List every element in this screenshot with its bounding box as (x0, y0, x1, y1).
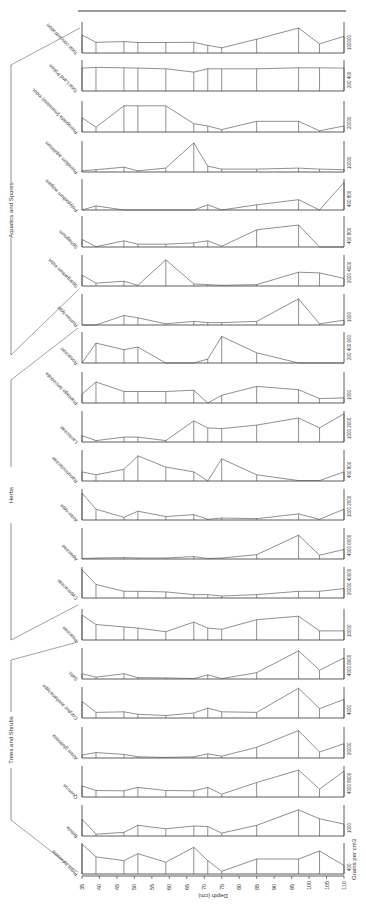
taxon-panel: 20000Pteropsida (monolete) indet. (30, 87, 352, 136)
taxon-panel: 20000Alnus glutinosa (50, 727, 352, 762)
depth-axis: 35404550556065707580859095100105110 (79, 876, 347, 890)
taxon-panel: 10000Pteridium aquilinum (43, 140, 352, 175)
group-label: Trees and Shrubs (8, 716, 14, 763)
concentration-curve (82, 651, 344, 679)
concentration-curve (82, 615, 344, 632)
taxon-panel: 200 400 600Rosaceae (58, 332, 352, 367)
taxon-label: Sphagnum (57, 229, 78, 250)
taxon-panel: 400 800Polypodium vulgare (43, 178, 352, 213)
taxon-panel: 20000 40000Cyperaceae (55, 567, 352, 602)
group-brackets: Aquatics and SporesHerbsTrees and Shrubs (7, 28, 80, 872)
panel-scale-label: 4000 8000 (347, 772, 352, 794)
panel-scale-label: 200 400 (347, 71, 352, 88)
panel-scale-label: 2000 4000 (347, 261, 352, 283)
concentration-curve (82, 382, 344, 403)
depth-tick-label: 45 (114, 884, 120, 890)
depth-tick-label: 85 (254, 884, 260, 890)
taxon-panel: 1000Betula (64, 805, 352, 840)
taxon-label: Ranunculaceae (50, 456, 79, 485)
depth-tick-label: 90 (271, 884, 277, 890)
concentration-curve (82, 770, 344, 794)
concentration-curve (82, 570, 344, 596)
concentration-curve (82, 456, 344, 481)
panel-scale-label: 20000 40000 (347, 568, 352, 595)
panel-scale-label: 1000 (347, 311, 352, 322)
group-label: Aquatics and Spores (8, 182, 14, 237)
taxon-label: Salix (66, 670, 78, 682)
taxa-panels: 100000Total concentration200 400Total La… (30, 22, 352, 878)
panel-scale-label: 400 800 (347, 190, 352, 207)
concentration-curve (82, 67, 344, 72)
group-label: Herbs (8, 487, 14, 503)
depth-tick-label: 65 (184, 884, 190, 890)
taxon-label: Aster-type (58, 503, 79, 524)
taxon-panel: 1000 2000Lactuceae (58, 411, 352, 446)
panel-scale-label: 1000 2000 (347, 495, 352, 517)
depth-tick-label: 110 (341, 881, 347, 890)
taxon-label: Total Land Pollen (47, 63, 79, 95)
depth-tick-label: 35 (79, 884, 85, 890)
taxon-panel: 4000Corylus avellana-type (40, 683, 352, 721)
taxon-label: Alnus glutinosa (50, 733, 78, 761)
taxon-label: Rosaceae (58, 346, 78, 366)
depth-tick-label: 100 (306, 881, 312, 890)
taxon-panel: 1000Plantago lanceolata (43, 371, 352, 406)
concentration-curve (82, 182, 344, 210)
taxon-panel: 1000 2000Aster-type (58, 489, 352, 524)
taxon-panel: 400 800Ranunculaceae (50, 450, 352, 485)
depth-tick-label: 80 (236, 884, 242, 890)
taxon-label: Polypodium vulgare (43, 178, 78, 213)
panel-scale-label: 4000 (347, 704, 352, 715)
taxon-panel: 2000 4000Sparganium indet. (46, 255, 352, 290)
concentration-curve (82, 336, 344, 363)
taxon-label: Total concentration (45, 22, 79, 56)
concentration-curve (82, 299, 344, 325)
panel-scale-label: 200 400 600 (347, 334, 352, 360)
bracket-connector (11, 642, 78, 660)
taxon-label: Pteridium aquilinum (43, 140, 78, 175)
panel-scale-label: 20000 (347, 116, 352, 129)
panel-scale-label: 1000 (347, 389, 352, 400)
taxon-label: Pinus sylvestris (50, 849, 79, 878)
concentration-curve (82, 414, 344, 441)
concentration-curve (82, 810, 344, 834)
concentration-curve (82, 106, 344, 131)
grains-axis-label: Grains per cm3 (351, 838, 357, 880)
depth-tick-label: 95 (289, 884, 295, 890)
group-bracket: Aquatics and Spores (7, 65, 15, 355)
depth-tick-label: 40 (96, 884, 102, 890)
concentration-curve (82, 844, 344, 871)
panel-scale-label: 400 800 (347, 227, 352, 244)
taxon-label: Quercus (61, 783, 79, 801)
depth-tick-label: 75 (219, 884, 225, 890)
taxon-panel: 4000 8000Salix (66, 648, 352, 683)
taxon-label: Sparganium indet. (46, 257, 79, 290)
concentration-curve (82, 260, 344, 286)
depth-tick-label: 50 (131, 884, 137, 890)
panel-scale-label: 10000 (347, 624, 352, 637)
taxon-panel: 400Pinus sylvestris (50, 843, 352, 878)
pollen-diagram-svg: 100000Total concentration200 400Total La… (0, 0, 366, 904)
panel-scale-label: 100000 (347, 34, 352, 50)
taxon-panel: 4000 6000Apiaceae (60, 528, 352, 563)
depth-tick-label: 105 (324, 881, 330, 890)
panel-scale-label: 10000 (347, 156, 352, 169)
taxon-label: Cyperaceae (55, 578, 78, 601)
taxon-panel: 10000Poaceae (60, 609, 352, 644)
taxon-panel: 400 800Sphagnum (57, 216, 352, 251)
taxon-panel: 1000Rumex-type (55, 294, 352, 329)
group-bracket: Herbs (7, 380, 15, 640)
panel-scale-label: 1000 (347, 822, 352, 833)
depth-tick-label: 60 (166, 884, 172, 890)
taxon-label: Poaceae (60, 625, 78, 643)
depth-axis-label: Depth (cm) (198, 893, 228, 899)
pollen-diagram: 100000Total concentration200 400Total La… (0, 0, 366, 904)
taxon-label: Corylus avellana-type (40, 683, 78, 721)
panel-scale-label: 400 800 (347, 461, 352, 478)
concentration-curve (82, 143, 344, 171)
concentration-curve (82, 225, 344, 247)
group-bracket: Trees and Shrubs (7, 660, 15, 820)
taxon-panel: 4000 8000Quercus (61, 766, 352, 801)
panel-scale-label: 4000 8000 (347, 654, 352, 676)
taxon-label: Apiaceae (60, 543, 79, 562)
